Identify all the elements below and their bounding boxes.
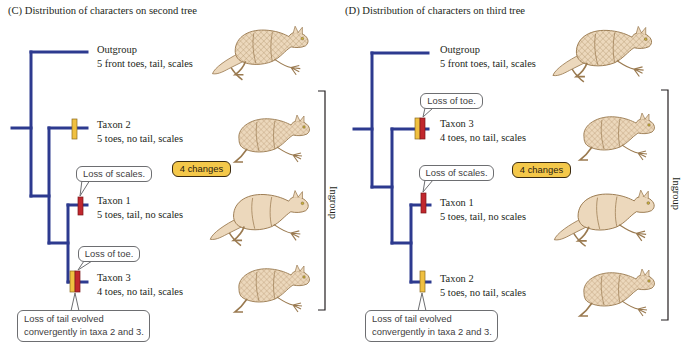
lizard-taxon2-illustration [580, 269, 654, 316]
lizard-taxon3-illustration [235, 265, 309, 312]
taxon-traits: 5 front toes, tail, scales [97, 57, 193, 71]
tail-loss-marker [415, 118, 420, 139]
taxon-traits: 5 toes, tail, no scales [97, 208, 183, 222]
scale-loss-marker [78, 197, 83, 215]
taxon-label-taxon3: Taxon 3 4 toes, no tail, scales [440, 117, 526, 144]
changes-count-badge: 4 changes [172, 161, 231, 177]
callout-line: Loss of tail evolved [24, 312, 143, 325]
taxon-traits: 5 toes, no tail, scales [440, 286, 526, 300]
lizard-outgroup-illustration [212, 26, 308, 80]
lizard-taxon3-illustration [580, 113, 654, 160]
toe-loss-marker [420, 118, 425, 139]
taxon-name: Taxon 1 [97, 194, 183, 208]
taxon-name: Taxon 3 [440, 117, 526, 131]
taxon-name: Outgroup [440, 43, 536, 57]
callout-loss-of-scales: Loss of scales. [76, 166, 152, 182]
lizard-taxon2-illustration [235, 115, 309, 162]
ingroup-bracket-D [661, 90, 668, 320]
taxon-name: Taxon 3 [97, 271, 183, 285]
taxon-label-outgroup: Outgroup 5 front toes, tail, scales [440, 43, 536, 70]
scale-loss-marker [421, 193, 426, 213]
tail-loss-marker [420, 271, 425, 292]
panel-d-title: (D) Distribution of characters on third … [345, 5, 525, 16]
tail-loss-marker [70, 271, 75, 292]
lizard-taxon1-illustration [210, 191, 308, 246]
ingroup-label: Ingroup [671, 177, 682, 210]
taxon-label-taxon2: Taxon 2 5 toes, no tail, scales [440, 272, 526, 299]
callout-loss-of-toe: Loss of toe. [78, 246, 140, 262]
callout-line: convergently in taxa 2 and 3. [24, 325, 143, 338]
panel-c-title: (C) Distribution of characters on second… [8, 5, 197, 16]
callout-loss-of-scales: Loss of scales. [419, 165, 494, 181]
callout-convergent-tail-loss: Loss of tail evolved convergently in tax… [17, 310, 150, 342]
taxon-name: Taxon 1 [440, 196, 526, 210]
taxon-label-taxon3: Taxon 3 4 toes, no tail, scales [97, 271, 183, 298]
lizard-taxon1-illustration [554, 190, 654, 246]
callout-convergent-tail-loss: Loss of tail evolved convergently in tax… [365, 310, 498, 342]
taxon-name: Outgroup [97, 43, 193, 57]
taxon-label-taxon2: Taxon 2 5 toes, no tail, scales [97, 118, 183, 145]
callout-line: Loss of tail evolved [372, 312, 491, 325]
taxon-traits: 5 toes, no tail, scales [97, 132, 183, 146]
lizard-outgroup-illustration [553, 26, 652, 81]
taxon-traits: 4 toes, no tail, scales [440, 131, 526, 145]
taxon-name: Taxon 2 [97, 118, 183, 132]
callout-loss-of-toe: Loss of toe. [420, 93, 483, 109]
ingroup-bracket-C [318, 91, 325, 310]
ingroup-label: Ingroup [328, 186, 339, 219]
changes-count-badge: 4 changes [512, 162, 571, 178]
taxon-label-taxon1: Taxon 1 5 toes, tail, no scales [97, 194, 183, 221]
taxon-label-taxon1: Taxon 1 5 toes, tail, no scales [440, 196, 526, 223]
taxon-traits: 5 toes, tail, no scales [440, 210, 526, 224]
tail-loss-marker [72, 119, 77, 139]
taxon-name: Taxon 2 [440, 272, 526, 286]
callout-line: convergently in taxa 2 and 3. [372, 325, 491, 338]
toe-loss-marker [75, 271, 80, 292]
taxon-traits: 5 front toes, tail, scales [440, 57, 536, 71]
taxon-label-outgroup: Outgroup 5 front toes, tail, scales [97, 43, 193, 70]
tree-C-branches [12, 52, 87, 282]
taxon-traits: 4 toes, no tail, scales [97, 285, 183, 299]
